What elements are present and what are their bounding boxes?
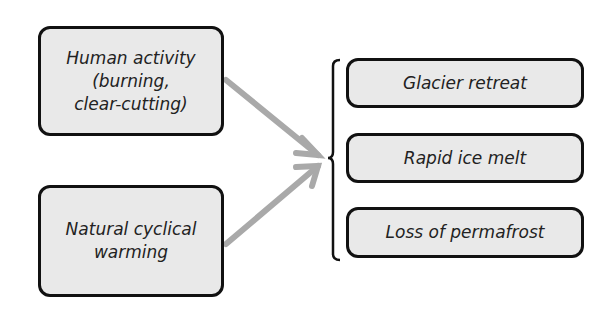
cause-label: Natural cyclical warming (66, 218, 197, 264)
cause-label: Human activity (burning, clear-cutting) (66, 47, 195, 116)
effects-bracket (328, 60, 340, 260)
effect-box-glacier-retreat: Glacier retreat (346, 58, 584, 108)
arrow-human-to-effects (226, 80, 318, 155)
effect-box-rapid-ice-melt: Rapid ice melt (346, 133, 584, 183)
effect-label: Loss of permafrost (386, 221, 545, 244)
arrow-natural-to-effects (226, 166, 318, 244)
effect-label: Rapid ice melt (404, 147, 526, 170)
cause-box-human-activity: Human activity (burning, clear-cutting) (38, 26, 224, 136)
cause-box-natural-warming: Natural cyclical warming (38, 185, 224, 297)
effect-label: Glacier retreat (403, 72, 527, 95)
effect-box-loss-of-permafrost: Loss of permafrost (346, 207, 584, 258)
